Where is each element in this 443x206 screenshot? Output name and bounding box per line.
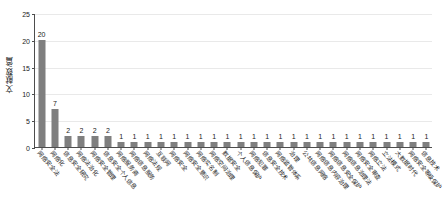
x-label-slot: 网络法治化 [74,149,87,206]
bar-slot: 1 [420,14,433,147]
bar-slot: 2 [75,14,88,147]
bar-value-label: 1 [398,133,402,140]
bar-slot: 20 [35,14,48,147]
bar-value-label: 1 [345,133,349,140]
bar-slot: 1 [380,14,393,147]
y-tick-label: 0 [26,145,30,152]
bar-value-label: 1 [225,133,229,140]
bar-value-label: 1 [239,133,243,140]
x-label-slot: 网络安全 [167,149,180,206]
x-label-slot: 网络化 [47,149,60,206]
bar-slot: 1 [247,14,260,147]
x-label-slot: 网络安全管理 [87,149,100,206]
bar-value-label: 1 [212,133,216,140]
x-label-slot: 网络空间治理 [206,149,219,206]
bar-slot: 1 [181,14,194,147]
bar[interactable] [65,136,72,147]
bar-value-label: 1 [252,133,256,140]
bar-value-label: 2 [66,127,70,134]
bar-value-label: 1 [385,133,389,140]
bar-slot: 1 [221,14,234,147]
x-label-slot: 信息安全技术 [260,149,273,206]
x-label-slot: 网络信息安全保护 [326,149,339,206]
bar-value-label: 1 [358,133,362,140]
bar-slot: 2 [88,14,101,147]
x-label-slot: 互联网 [153,149,166,206]
bar-value-label: 1 [172,133,176,140]
plot-area: 2072222111111111111111111111111 [34,14,432,148]
x-label-slot: 网络法规 [140,149,153,206]
y-axis-title: 文献数/篇 [2,0,16,148]
bar[interactable] [38,40,45,147]
y-tick-label: 20 [22,37,30,44]
x-label-slot: 网络信息内容治理 [313,149,326,206]
bar-value-label: 1 [371,133,375,140]
bar-slot: 1 [406,14,419,147]
bar-value-label: 1 [424,133,428,140]
bar-slot: 1 [141,14,154,147]
bar[interactable] [78,136,85,147]
bars-layer: 2072222111111111111111111111111 [35,14,432,147]
bar-slot: 1 [194,14,207,147]
bar-slot: 1 [327,14,340,147]
x-label-slot: 公共信息网络 [299,149,312,206]
y-tick-label: 5 [26,118,30,125]
bar-slot: 1 [115,14,128,147]
bar-slot: 1 [287,14,300,147]
bar-value-label: 1 [278,133,282,140]
bar-value-label: 7 [53,100,57,107]
bar-value-label: 20 [38,31,46,38]
y-axis-tick-labels: 0510152025 [16,0,32,148]
bar-slot: 1 [300,14,313,147]
x-label-slot: 网络监管体系 [273,149,286,206]
x-axis-category-labels: 网络安全法网络化信息安全研究网络法治化网络安全管理信息安全个人信息网络服务商网络… [34,149,432,206]
x-category-label: 信息技术 [421,150,441,172]
x-label-slot: 信息安全个人信息 [100,149,113,206]
bar-value-label: 2 [106,127,110,134]
x-label-slot: 大数据时代 [392,149,405,206]
bar-slot: 2 [62,14,75,147]
bar-slot: 1 [340,14,353,147]
bar-value-label: 1 [199,133,203,140]
x-label-slot: 网络安全审查 [352,149,365,206]
bar[interactable] [91,136,98,147]
x-label-slot: 立法模式 [379,149,392,206]
y-axis-title-text: 文献数/篇 [4,56,15,93]
bar-value-label: 1 [411,133,415,140]
x-label-slot: 治理 [286,149,299,206]
bar-slot: 1 [274,14,287,147]
bar-slot: 1 [314,14,327,147]
bar-value-label: 2 [79,127,83,134]
bar-value-label: 1 [159,133,163,140]
x-label-slot: 网络立法 [366,149,379,206]
x-label-slot: 网络信息治理法 [339,149,352,206]
x-label-slot: 信息安全研究 [61,149,74,206]
bar-slot: 1 [261,14,274,147]
x-label-slot: 个人信息保护 [233,149,246,206]
bar[interactable] [51,109,58,147]
x-label-slot: 网络安全等级保护 [405,149,418,206]
bar-slot: 1 [393,14,406,147]
bar-value-label: 1 [305,133,309,140]
bar-value-label: 1 [318,133,322,140]
x-label-slot: 网络犯罪 [246,149,259,206]
bar-value-label: 1 [292,133,296,140]
bar-slot: 1 [168,14,181,147]
bar-value-label: 2 [93,127,97,134]
bar-value-label: 1 [332,133,336,140]
x-label-slot: 网络安全意识 [180,149,193,206]
bar-slot: 1 [234,14,247,147]
bar-value-label: 1 [146,133,150,140]
x-label-slot: 网络服务商 [114,149,127,206]
bar-slot: 1 [128,14,141,147]
x-label-slot: 信息技术 [419,149,432,206]
x-label-slot: 网络信息服务 [127,149,140,206]
bar-value-label: 1 [265,133,269,140]
bar-slot: 2 [101,14,114,147]
bar-slot: 1 [367,14,380,147]
bar[interactable] [104,136,111,147]
bar-slot: 1 [154,14,167,147]
bar-slot: 1 [207,14,220,147]
bar-slot: 7 [48,14,61,147]
